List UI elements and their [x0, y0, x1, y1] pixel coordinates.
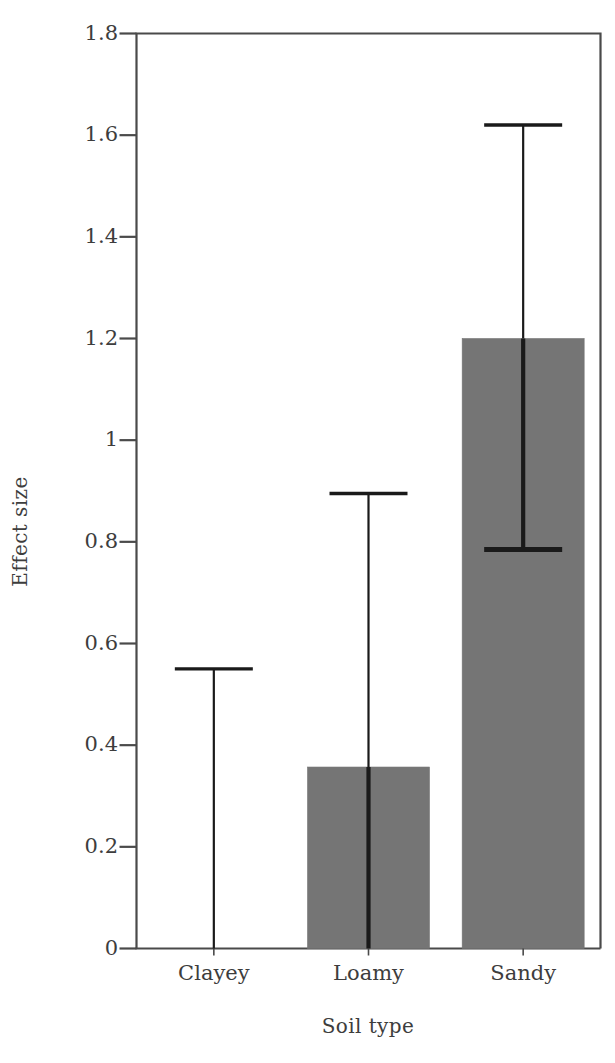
y-axis-ticks	[120, 34, 137, 949]
plot-canvas	[0, 0, 615, 1063]
bar-series	[308, 339, 585, 949]
chart-figure: Effect size 00.20.40.60.811.21.41.61.8 C…	[0, 0, 615, 1063]
